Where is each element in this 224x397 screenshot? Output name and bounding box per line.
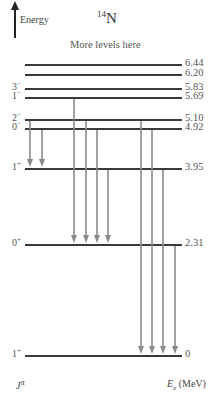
gamma-arrow-icon — [172, 246, 178, 354]
gamma-arrow-icon — [160, 170, 166, 354]
more-levels-note: More levels here — [70, 39, 141, 50]
level-spin-parity: 1− — [12, 89, 21, 101]
gamma-transitions — [27, 99, 178, 354]
gamma-arrow-icon — [94, 130, 100, 243]
spin-parity-axis-label: Jπ — [16, 378, 25, 391]
gamma-arrow-icon — [39, 130, 45, 167]
level-spin-parity: 0+ — [12, 236, 21, 248]
level-spin-parity: 1+ — [12, 160, 21, 172]
level-energy: 4.92 — [185, 121, 203, 132]
gamma-arrow-icon — [105, 170, 111, 243]
energy-levels — [25, 65, 182, 356]
level-energy: 6.20 — [185, 67, 203, 78]
energy-arrow-icon — [11, 1, 19, 38]
element-symbol: N — [106, 10, 117, 26]
energy-units-label: Ex (MeV) — [167, 378, 206, 392]
energy-axis-label: Energy — [20, 14, 49, 25]
level-spin-parity: 0− — [12, 120, 21, 132]
level-energy: 3.95 — [185, 161, 203, 172]
nucleus-title: 14N — [97, 9, 117, 27]
gamma-arrow-icon — [138, 121, 144, 354]
level-spin-parity: 1+ — [12, 347, 21, 359]
gamma-arrow-icon — [83, 121, 89, 243]
mass-number: 14 — [97, 9, 106, 19]
level-energy: 0 — [185, 348, 190, 359]
level-energy: 2.31 — [185, 237, 203, 248]
level-energy: 5.69 — [185, 90, 203, 101]
gamma-arrow-icon — [149, 130, 155, 354]
